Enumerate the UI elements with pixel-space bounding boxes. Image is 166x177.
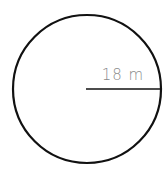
radius-label: 18 m [99,66,147,84]
circle-diagram [0,0,166,177]
